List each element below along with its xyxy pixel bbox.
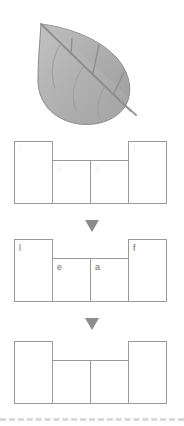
leaf-stem — [128, 108, 136, 115]
leaf-boxes-filled[interactable]: l e a f — [0, 236, 184, 306]
cell-letter-4: f — [133, 243, 136, 253]
cell-letter-4: f — [133, 145, 136, 155]
arrow-down-1 — [0, 219, 184, 235]
arrow-down-2 — [0, 317, 184, 333]
box-cell-short-1 — [53, 361, 91, 404]
cell-letter-2: e — [57, 164, 62, 174]
leaf-vein — [71, 39, 72, 54]
bottom-dashed-rule — [0, 418, 184, 421]
leaf-illustration — [0, 0, 184, 135]
triangle-down-icon — [84, 219, 100, 233]
box-cell-short-2 — [91, 361, 129, 404]
box-cell-tall-right — [129, 342, 167, 404]
cell-letter-1: l — [19, 243, 21, 253]
box-cell-tall-left — [15, 342, 53, 404]
cell-letter-1: l — [19, 145, 21, 155]
boxes-svg — [0, 338, 184, 408]
boxes-svg: l e a f — [0, 236, 184, 306]
leaf-graphic — [0, 0, 184, 135]
cell-letter-3: a — [95, 164, 100, 174]
triangle-down-icon — [84, 317, 100, 331]
cell-letter-2: e — [57, 262, 62, 272]
leaf-boxes-empty[interactable] — [0, 338, 184, 408]
boxes-svg: l e a f — [0, 138, 184, 208]
cell-letter-3: a — [95, 262, 100, 272]
leaf-boxes-ghost[interactable]: l e a f — [0, 138, 184, 208]
